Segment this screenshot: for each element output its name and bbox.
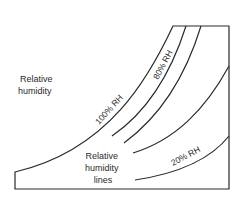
rh-curve-50	[133, 66, 229, 153]
chart-boundary	[15, 26, 229, 189]
rh-curve-90	[112, 26, 186, 136]
relative-humidity-title: Relative humidity	[18, 74, 55, 96]
psychrometric-diagram: Relative humidity Relative humidity line…	[0, 0, 241, 198]
relative-humidity-lines-label: Relative humidity lines	[85, 151, 121, 185]
rh-curve-80	[124, 26, 201, 143]
rh20-label: 20% RH	[169, 144, 202, 168]
